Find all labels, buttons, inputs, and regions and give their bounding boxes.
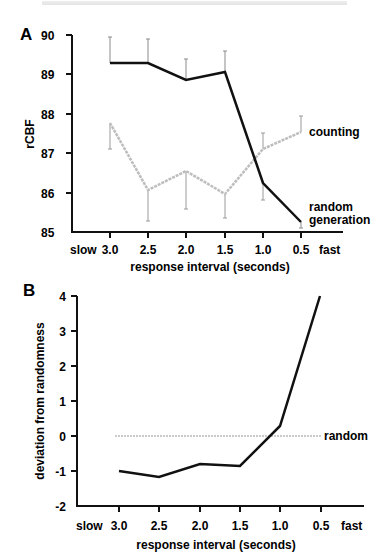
panel-b-letter: B bbox=[23, 281, 35, 300]
panel-b-xtick-label: 2.0 bbox=[192, 519, 209, 533]
panel-b-ytick-label: -2 bbox=[55, 500, 66, 514]
panel-a-counting-label: counting bbox=[309, 125, 360, 139]
panel-b-x-axis-label: response interval (seconds) bbox=[136, 538, 295, 552]
panel-b-ytick-label: 2 bbox=[59, 360, 66, 374]
panel-a-random-generation-line bbox=[110, 63, 301, 222]
panel-a-random-generation-error-bars bbox=[108, 37, 303, 228]
panel-b-ytick-label: 3 bbox=[59, 325, 66, 339]
panel-a-random-generation-label: generation bbox=[309, 213, 370, 227]
panel-a-xtick-label: 2.0 bbox=[178, 243, 195, 257]
panel-b-random-generation-line bbox=[119, 296, 320, 477]
panel-a-ytick-label: 85 bbox=[41, 226, 55, 240]
panel-a-ytick-label: 88 bbox=[41, 108, 55, 122]
panel-a-xtick-label: 1.5 bbox=[217, 243, 234, 257]
panel-b-random-label: random bbox=[324, 429, 368, 443]
panel-b-xtick-label: 1.5 bbox=[232, 519, 249, 533]
panel-a: A 90 89 88 87 86 85 rCBF slow 3.0 2.5 bbox=[20, 25, 370, 274]
panel-b-xtick-label: 0.5 bbox=[313, 519, 330, 533]
panel-a-xtick-label: 1.0 bbox=[255, 243, 272, 257]
panel-a-fast-label: fast bbox=[319, 243, 340, 257]
panel-b-xtick-label: 1.0 bbox=[272, 519, 289, 533]
panel-a-counting-error-bars bbox=[108, 116, 303, 221]
panel-a-xtick-label: 2.5 bbox=[140, 243, 157, 257]
panel-a-counting-line bbox=[110, 123, 301, 194]
panel-b-fast-label: fast bbox=[341, 519, 362, 533]
panel-b-ytick-label: 0 bbox=[59, 430, 66, 444]
panel-b-y-axis-label: deviation from randomness bbox=[33, 322, 47, 480]
figure: A 90 89 88 87 86 85 rCBF slow 3.0 2.5 bbox=[0, 0, 388, 559]
panel-a-xtick-label: 3.0 bbox=[102, 243, 119, 257]
panel-a-random-generation-label: random bbox=[309, 200, 353, 214]
panel-a-letter: A bbox=[20, 25, 32, 44]
panel-b-xtick-label: 3.0 bbox=[111, 519, 128, 533]
panel-a-xtick-label: 0.5 bbox=[293, 243, 310, 257]
panel-b-ytick-label: -1 bbox=[55, 465, 66, 479]
panel-b-ytick-label: 1 bbox=[59, 395, 66, 409]
panel-b-xtick-label: 2.5 bbox=[151, 519, 168, 533]
panel-a-ytick-label: 87 bbox=[41, 147, 55, 161]
panel-b-slow-label: slow bbox=[76, 519, 103, 533]
panel-b-ytick-label: 4 bbox=[59, 290, 66, 304]
panel-a-ytick-label: 90 bbox=[41, 29, 55, 43]
panel-a-ytick-label: 86 bbox=[41, 187, 55, 201]
panel-a-x-axis-label: response interval (seconds) bbox=[130, 260, 289, 274]
panel-a-ytick-label: 89 bbox=[41, 68, 55, 82]
panel-a-slow-label: slow bbox=[70, 243, 97, 257]
panel-b: B 4 3 2 1 0 -1 -2 deviation from randomn… bbox=[23, 281, 368, 552]
panel-a-y-axis-label: rCBF bbox=[23, 119, 37, 148]
